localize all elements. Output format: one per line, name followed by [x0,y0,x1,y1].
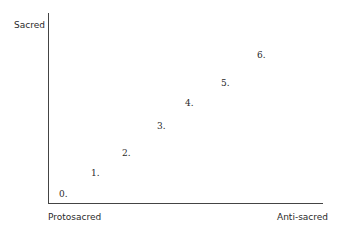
y-axis-line [48,13,49,203]
point-2: 2. [122,148,131,159]
x-axis-right-label: Anti-sacred [277,212,328,223]
point-5: 5. [221,78,230,89]
x-axis-left-label: Protosacred [48,212,101,223]
point-6: 6. [257,50,266,61]
point-0: 0. [59,189,68,200]
x-axis-line [48,203,323,204]
point-1: 1. [91,168,100,179]
y-axis-label: Sacred [14,20,45,31]
point-3: 3. [157,121,166,132]
point-4: 4. [185,98,194,109]
